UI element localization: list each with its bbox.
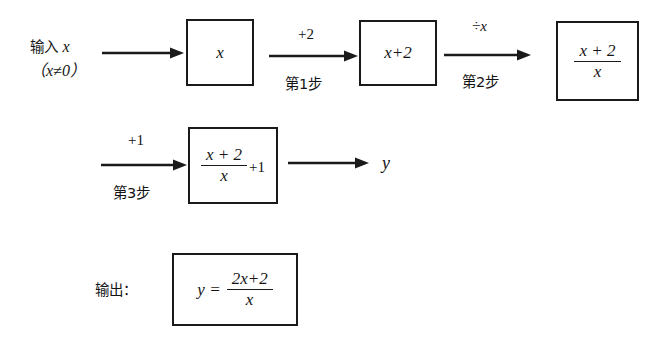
arrow-step-3-bottom-label: 第3步 <box>113 181 150 202</box>
arrow-step-3-top-label: +1 <box>128 132 144 149</box>
box-frac-denominator: x <box>589 62 607 81</box>
flowchart-canvas: 输入 x （x≠0） x +2 第1步 x+2 ÷x <box>0 0 656 353</box>
box-result-denominator: x <box>241 290 259 309</box>
input-label-text: 输入 <box>30 39 58 55</box>
box-frac-plus-1-content: x + 2 x +1 <box>201 146 265 185</box>
box-frac-plus-1-tail: +1 <box>247 159 265 176</box>
output-label: 输出： <box>95 280 137 302</box>
arrow-output-icon <box>288 157 369 169</box>
box-frac-numerator: x + 2 <box>574 42 620 62</box>
box-result-content: y = 2x+2 x <box>197 270 272 309</box>
box-x-plus-2-content: x+2 <box>384 43 412 63</box>
box-frac-content: x + 2 x <box>574 42 620 81</box>
input-label-line1: 输入 x <box>30 35 86 59</box>
box-x: x <box>186 19 254 86</box>
box-result-numerator: 2x+2 <box>227 270 273 290</box>
arrow-input <box>102 47 184 59</box>
arrow-input-icon <box>102 47 184 59</box>
box-frac: x + 2 x <box>556 21 639 101</box>
input-label-line2: （x≠0） <box>30 59 86 83</box>
arrow-step-2 <box>444 49 531 61</box>
box-x-content: x <box>216 43 224 63</box>
box-frac-plus-1-denominator: x <box>215 166 233 185</box>
arrow-step-2-icon <box>444 49 531 61</box>
input-label: 输入 x （x≠0） <box>30 35 86 83</box>
arrow-step-1-top-label: +2 <box>298 26 314 43</box>
box-frac-plus-1-fraction: x + 2 x <box>201 146 247 185</box>
result-variable: y <box>382 153 390 174</box>
box-frac-plus-1-numerator: x + 2 <box>201 146 247 166</box>
arrow-output <box>288 157 369 169</box>
arrow-step-1 <box>269 50 358 62</box>
input-label-variable: x <box>63 38 70 55</box>
box-result-fraction: 2x+2 x <box>227 270 273 309</box>
arrow-step-1-icon <box>269 50 358 62</box>
box-x-plus-2: x+2 <box>359 20 437 86</box>
box-frac-plus-1: x + 2 x +1 <box>188 127 278 204</box>
box-result: y = 2x+2 x <box>172 253 298 326</box>
arrow-step-2-bottom-label: 第2步 <box>462 70 499 91</box>
arrow-step-3 <box>101 159 187 171</box>
arrow-step-3-icon <box>101 159 187 171</box>
box-result-lhs: y = <box>197 280 226 300</box>
arrow-step-1-bottom-label: 第1步 <box>285 72 322 93</box>
arrow-step-2-top-label: ÷x <box>472 18 487 35</box>
